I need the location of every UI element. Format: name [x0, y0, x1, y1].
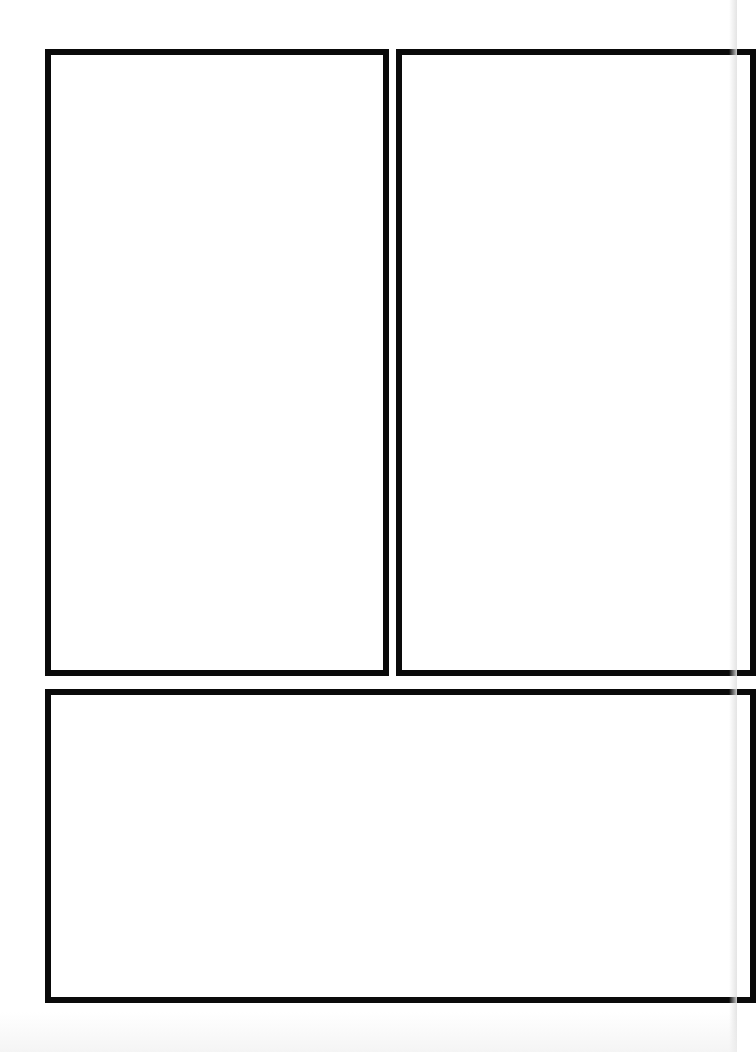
page-edge-shadow — [729, 0, 737, 1052]
page-bottom-tint — [0, 1012, 737, 1052]
panel-bottom — [45, 689, 756, 1003]
panel-top-left — [45, 49, 389, 676]
panel-top-right — [396, 49, 756, 676]
